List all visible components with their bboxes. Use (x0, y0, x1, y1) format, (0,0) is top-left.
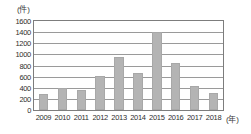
bar-2012 (95, 76, 104, 110)
y-axis-tick-label: 200 (0, 95, 31, 104)
bar-2013 (114, 57, 123, 110)
y-axis-tick-label: 1400 (0, 28, 31, 37)
bar-2015 (152, 32, 161, 110)
y-axis-tick-label: 1600 (0, 17, 31, 26)
bar-2016 (171, 63, 180, 110)
bar-2011 (77, 90, 86, 110)
x-axis-tick-label: 2018 (203, 113, 225, 122)
y-axis-tick-label: 400 (0, 84, 31, 93)
bar-2014 (133, 73, 142, 110)
y-axis-tick-label: 800 (0, 62, 31, 71)
y-axis-tick-label: 1000 (0, 50, 31, 59)
y-axis-tick-label: 600 (0, 73, 31, 82)
bar-2018 (209, 93, 218, 110)
bar-chart: (件) 16001400120010008006004002000 200920… (0, 0, 251, 134)
bar-2009 (39, 94, 48, 110)
y-axis-tick-label: 0 (0, 106, 31, 115)
y-axis-unit-label: (件) (17, 3, 30, 14)
bar-2010 (58, 88, 67, 110)
bars-group (34, 21, 223, 110)
x-axis-unit-label: (年) (226, 113, 239, 124)
bar-2017 (190, 86, 199, 110)
y-axis-tick-label: 1200 (0, 39, 31, 48)
